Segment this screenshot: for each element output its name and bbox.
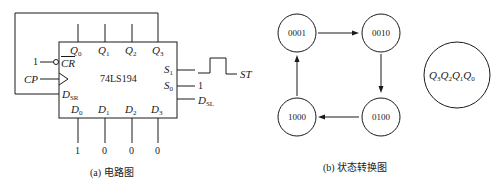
cr-value: 1 xyxy=(33,57,38,67)
state-0010: 0010 xyxy=(361,29,401,38)
state-0100: 0100 xyxy=(361,113,401,122)
input-label-d2: D2 xyxy=(125,104,136,117)
st-label: ST xyxy=(240,69,252,80)
state-1000: 1000 xyxy=(277,113,317,122)
input-label-d3: D3 xyxy=(151,104,162,117)
dsr-label: DSR xyxy=(62,89,79,102)
state-diagram-caption: (b) 状态转换图 xyxy=(323,163,387,173)
circuit-caption: (a) 电路图 xyxy=(90,168,134,178)
input-value-d0: 1 xyxy=(75,146,80,156)
s0-label: S0 xyxy=(164,80,173,93)
output-label-q3: Q3 xyxy=(152,45,163,58)
output-label-q1: Q1 xyxy=(98,45,109,58)
cr-label: CR xyxy=(61,58,75,69)
cp-label: CP xyxy=(24,74,38,85)
state-legend: Q3Q2Q1Q0 xyxy=(429,70,475,83)
input-value-d1: 0 xyxy=(102,146,107,156)
dsl-label: DSL xyxy=(198,95,214,108)
output-label-q2: Q2 xyxy=(125,45,136,58)
input-label-d0: D0 xyxy=(71,104,82,117)
state-0001: 0001 xyxy=(277,29,317,38)
s1-label: S1 xyxy=(164,64,173,77)
input-label-d1: D1 xyxy=(98,104,109,117)
input-value-d3: 0 xyxy=(155,146,160,156)
s0-value: 1 xyxy=(198,81,203,91)
input-value-d2: 0 xyxy=(129,146,134,156)
chip-name: 74LS194 xyxy=(100,74,137,84)
